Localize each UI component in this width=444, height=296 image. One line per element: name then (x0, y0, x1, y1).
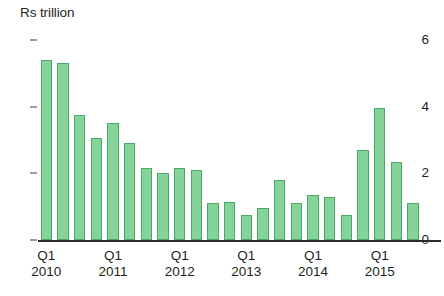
bar (57, 63, 69, 240)
x-axis-year-label: 2014 (298, 264, 328, 280)
bar (374, 108, 386, 240)
bar (257, 208, 269, 240)
x-axis-group-label: Q12014 (298, 248, 328, 279)
bar (191, 170, 203, 240)
x-axis-year-label: 2011 (98, 264, 127, 280)
bar (174, 168, 186, 240)
x-axis-group-label: Q12013 (231, 248, 261, 279)
x-axis-line (38, 240, 441, 242)
bar (124, 143, 136, 240)
bar (407, 203, 419, 240)
bar (91, 138, 103, 240)
x-axis-quarter-label: Q1 (98, 248, 127, 264)
x-axis-year-label: 2012 (165, 264, 195, 280)
x-axis-year-label: 2015 (365, 264, 395, 280)
x-axis-group-label: Q12010 (31, 248, 61, 279)
bar (141, 168, 153, 240)
plot-area: 0246 Q12010Q12011Q12012Q12013Q12014Q1201… (38, 40, 438, 240)
bar (241, 215, 253, 240)
x-axis-quarter-label: Q1 (365, 248, 395, 264)
bar (224, 202, 236, 240)
bar (307, 195, 319, 240)
x-axis-group-label: Q12015 (365, 248, 395, 279)
bar (107, 123, 119, 240)
bar (357, 150, 369, 240)
bar (341, 215, 353, 240)
bar (41, 60, 53, 240)
y-tick-label: 2 (421, 167, 429, 181)
y-tick-mark (30, 173, 37, 174)
bar (74, 115, 86, 240)
bar (391, 162, 403, 240)
x-axis-year-label: 2013 (231, 264, 261, 280)
x-axis-group-label: Q12012 (165, 248, 195, 279)
x-axis-quarter-label: Q1 (298, 248, 328, 264)
y-tick-mark (30, 40, 37, 41)
bar (324, 197, 336, 240)
y-tick-label: 6 (421, 33, 429, 47)
x-axis-year-label: 2010 (31, 264, 61, 280)
bar (157, 173, 169, 240)
bar-chart: Rs trillion 0246 Q12010Q12011Q12012Q1201… (0, 0, 444, 296)
bar (274, 180, 286, 240)
bar (207, 203, 219, 240)
x-axis-group-label: Q12011 (98, 248, 127, 279)
y-tick-mark (30, 106, 37, 107)
x-axis-quarter-label: Q1 (31, 248, 61, 264)
x-axis-quarter-label: Q1 (231, 248, 261, 264)
y-tick-mark (30, 240, 37, 241)
y-axis-unit-label: Rs trillion (20, 5, 74, 20)
x-axis-quarter-label: Q1 (165, 248, 195, 264)
bar (291, 203, 303, 240)
y-tick-label: 4 (421, 100, 429, 114)
